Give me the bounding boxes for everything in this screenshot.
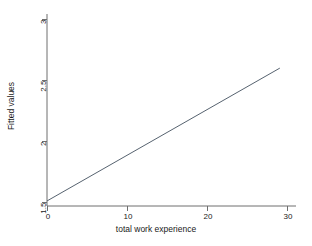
x-tick-label-20: 20: [193, 212, 223, 221]
chart-figure: 3 2.5 2 1.5 0 10 20 30 total work experi…: [0, 0, 312, 246]
y-tick-marks: [42, 20, 47, 203]
y-axis-title: Fitted values: [6, 82, 16, 130]
fitted-values-line: [48, 68, 280, 200]
x-tick-marks: [48, 206, 288, 211]
x-tick-label-0: 0: [33, 212, 63, 221]
x-tick-label-10: 10: [113, 212, 143, 221]
y-axis-title-wrap: Fitted values: [4, 0, 18, 212]
y-tick-label-3: 3: [39, 20, 48, 24]
y-tick-label-2_5: 2.5: [39, 81, 48, 92]
x-tick-label-30: 30: [273, 212, 303, 221]
y-tick-label-2: 2: [39, 142, 48, 146]
x-axis-title: total work experience: [0, 224, 312, 234]
